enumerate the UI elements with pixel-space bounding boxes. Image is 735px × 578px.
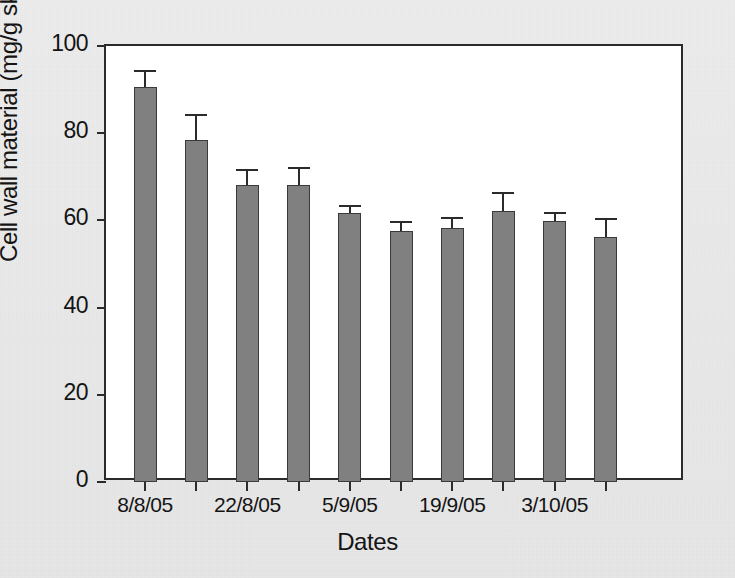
bar [543, 221, 566, 482]
y-tick-100 [97, 45, 106, 47]
bar [338, 213, 361, 482]
bar [441, 228, 464, 482]
error-bar-stem [246, 169, 248, 185]
error-bar-stem [605, 218, 607, 237]
error-bar-cap [492, 192, 514, 194]
y-tick-0 [97, 481, 106, 483]
x-tick-label-5: 3/10/05 [495, 493, 615, 517]
error-bar-stem [144, 70, 146, 87]
y-tick-label-80: 80 [63, 117, 88, 144]
y-tick-label-40: 40 [63, 292, 88, 319]
y-tick-20 [97, 394, 106, 396]
x-tick-3 [246, 482, 248, 491]
error-bar-cap [288, 167, 310, 169]
y-axis-title: Cell wall material (mg/g skin) [0, 0, 23, 262]
error-bar-stem [298, 167, 300, 185]
y-tick-label-20: 20 [63, 379, 88, 406]
bar [492, 211, 515, 482]
error-bar-cap [441, 217, 463, 219]
bar [134, 87, 157, 482]
bar [287, 185, 310, 482]
error-bar-cap [390, 221, 412, 223]
bar [594, 237, 617, 482]
figure: Cell wall material (mg/g skin) Dates 020… [0, 0, 735, 578]
bar [185, 140, 208, 482]
error-bar-cap [544, 212, 566, 214]
x-tick-5 [349, 482, 351, 491]
y-tick-label-60: 60 [63, 204, 88, 231]
error-bar-cap [236, 169, 258, 171]
bar [390, 231, 413, 482]
x-tick-2 [195, 482, 197, 491]
error-bar-cap [339, 205, 361, 207]
y-tick-60 [97, 219, 106, 221]
x-tick-9 [554, 482, 556, 491]
bar [236, 185, 259, 482]
x-axis-title: Dates [0, 528, 735, 556]
plot-area: 020406080100 8/8/0522/8/055/9/0519/9/053… [104, 44, 683, 480]
error-bar-cap [185, 114, 207, 116]
x-tick-1 [144, 482, 146, 491]
x-tick-10 [605, 482, 607, 491]
y-tick-80 [97, 132, 106, 134]
x-tick-7 [451, 482, 453, 491]
x-tick-8 [502, 482, 504, 491]
error-bar-cap [134, 70, 156, 72]
x-tick-6 [400, 482, 402, 491]
error-bar-stem [195, 114, 197, 140]
error-bar-cap [595, 218, 617, 220]
y-tick-label-0: 0 [76, 466, 88, 493]
x-tick-4 [298, 482, 300, 491]
error-bar-stem [502, 192, 504, 210]
y-tick-label-100: 100 [51, 30, 88, 57]
y-tick-40 [97, 307, 106, 309]
